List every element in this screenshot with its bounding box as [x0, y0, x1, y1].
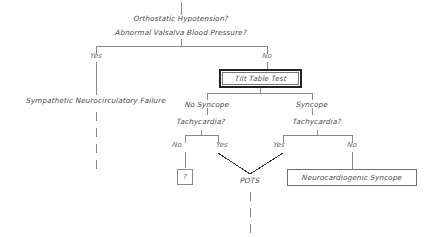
- edge-label-tachy-left-yes: Yes: [216, 141, 228, 149]
- edge-yes-right-to-pots: [250, 153, 283, 174]
- node-tilt-table-test-label: Tilt Table Test: [234, 74, 286, 83]
- edge-label-root-yes: Yes: [90, 52, 102, 60]
- node-neurocardiogenic-syncope-label: Neurocardiogenic Syncope: [302, 173, 403, 182]
- tilt-table-test-inner-border: Tilt Table Test: [222, 72, 298, 84]
- node-tilt-table-test-box[interactable]: Tilt Table Test: [219, 69, 302, 88]
- edge-label-root-no: No: [262, 52, 272, 60]
- node-unknown-outcome-label: ?: [183, 173, 187, 181]
- node-tachycardia-left: Tachycardia?: [176, 117, 225, 126]
- node-neurocardiogenic-syncope-box[interactable]: Neurocardiogenic Syncope: [287, 169, 417, 186]
- edge-yes-left-to-pots: [218, 153, 250, 174]
- node-no-syncope: No Syncope: [185, 100, 230, 109]
- node-unknown-outcome-box[interactable]: ?: [177, 169, 193, 185]
- edge-label-tachy-right-yes: Yes: [273, 141, 285, 149]
- edge-label-tachy-left-no: No: [172, 141, 182, 149]
- node-sympathetic-neurocirculatory-failure: Sympathetic Neurocirculatory Failure: [26, 96, 166, 105]
- flowchart-diagram: Orthostatic Hypotension? Abnormal Valsal…: [0, 0, 432, 237]
- root-question-line-1: Orthostatic Hypotension?: [133, 14, 228, 23]
- node-syncope: Syncope: [296, 100, 328, 109]
- node-tachycardia-right: Tachycardia?: [292, 117, 341, 126]
- node-pots: POTS: [240, 176, 260, 185]
- root-question-line-2: Abnormal Valsalva Blood Pressure?: [115, 28, 247, 37]
- edge-label-tachy-right-no: No: [347, 141, 357, 149]
